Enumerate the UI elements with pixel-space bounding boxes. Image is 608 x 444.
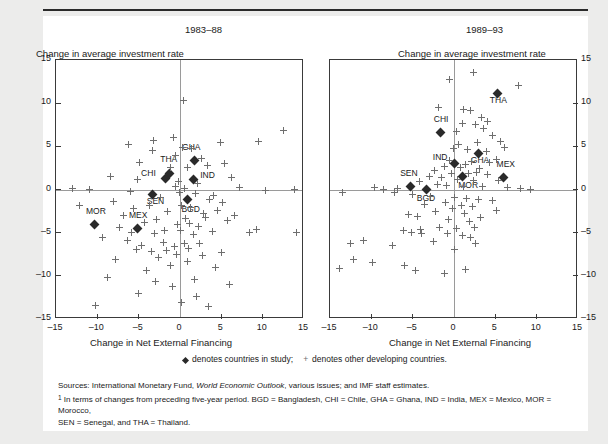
legend-diamond-label: denotes countries in study; — [192, 354, 293, 364]
x-axis-tick-label: –15 — [316, 322, 342, 332]
legend-diamond-icon — [182, 357, 189, 364]
scatter-point-other — [202, 214, 209, 221]
footnote-text-1: In terms of changes from preceding five-… — [58, 395, 551, 416]
x-tick — [138, 314, 139, 319]
y-axis-tick-label: 5 — [29, 139, 51, 149]
scatter-point-other — [479, 183, 486, 190]
scatter-point-other — [436, 224, 443, 231]
y-axis-tick-label: –15 — [29, 312, 51, 322]
y-tick — [573, 232, 578, 233]
scatter-point-other — [462, 266, 469, 273]
scatter-point-other — [418, 230, 425, 237]
scatter-label-ind: IND — [200, 170, 215, 180]
scatter-point-other — [151, 230, 158, 237]
y-tick — [573, 146, 578, 147]
scatter-point-other — [441, 270, 448, 277]
scatter-point-other — [426, 173, 433, 180]
scatter-point-other — [209, 228, 216, 235]
scatter-point-other — [339, 189, 346, 196]
sources-suffix: , various issues; and IMF staff estimate… — [284, 381, 429, 390]
legend-cross-icon: + — [303, 354, 308, 364]
scatter-point-other — [451, 246, 458, 253]
scatter-point-other — [99, 234, 106, 241]
scatter-point-other — [246, 229, 253, 236]
scatter-point-other — [451, 194, 458, 201]
scatter-point-other — [184, 258, 191, 265]
right-chart-period-title: 1989–93 — [466, 24, 503, 35]
scatter-point-other — [391, 189, 398, 196]
footnote-line-2: SEN = Senegal, and THA = Thailand. — [58, 417, 558, 429]
scatter-point-other — [527, 186, 534, 193]
y-tick — [56, 146, 61, 147]
scatter-point-other — [371, 184, 378, 191]
scatter-point-other — [205, 303, 212, 310]
x-axis-tick-label: –10 — [83, 322, 109, 332]
scatter-point-other — [450, 145, 457, 152]
scatter-point-other — [125, 141, 132, 148]
y-tick — [56, 103, 61, 104]
sources-prefix: Sources: International Monetary Fund, — [58, 381, 196, 390]
y-tick — [573, 103, 578, 104]
scatter-point-other — [170, 134, 177, 141]
sources-publication: World Economic Outlook — [196, 381, 284, 390]
y-tick — [56, 275, 61, 276]
scatter-point-other — [414, 213, 421, 220]
x-tick — [97, 314, 98, 319]
scatter-point-other — [212, 264, 219, 271]
scatter-point-other — [467, 107, 474, 114]
scatter-point-other — [475, 196, 482, 203]
left-chart-x-axis-title: Change in Net External Financing — [90, 337, 232, 348]
y-axis-tick-label: –15 — [581, 312, 603, 322]
right-scatter-plot: THACHIGHAINDMEXMORSENBGD — [329, 59, 577, 318]
scatter-point-other — [483, 148, 490, 155]
scatter-point-other — [409, 191, 416, 198]
left-scatter-plot: GHATHACHIINDSENBGDMORMEX — [55, 59, 303, 318]
scatter-point-other — [495, 177, 502, 184]
x-tick — [495, 314, 496, 319]
x-tick — [262, 314, 263, 319]
scatter-point-other — [69, 185, 76, 192]
scatter-point-other — [457, 164, 464, 171]
scatter-point-other — [192, 190, 199, 197]
scatter-point-other — [336, 265, 343, 272]
scatter-point-other — [504, 184, 511, 191]
scatter-point-other — [473, 169, 480, 176]
scatter-point-other — [191, 276, 198, 283]
scatter-point-other — [460, 183, 467, 190]
y-axis-tick-label: –10 — [581, 269, 603, 279]
scatter-point-study-mor — [89, 219, 99, 229]
scatter-point-other — [152, 278, 159, 285]
scatter-point-other — [194, 180, 201, 187]
scatter-point-other — [421, 201, 428, 208]
scatter-point-other — [127, 188, 134, 195]
scatter-point-other — [219, 199, 226, 206]
footnote-line-1: 1 In terms of changes from preceding fiv… — [58, 392, 558, 417]
scatter-point-other — [427, 193, 434, 200]
scatter-point-other — [231, 212, 238, 219]
source-notes: Sources: International Monetary Fund, Wo… — [58, 380, 558, 428]
scatter-point-other — [517, 185, 524, 192]
scatter-point-other — [236, 184, 243, 191]
scatter-point-other — [489, 197, 496, 204]
scatter-point-other — [112, 256, 119, 263]
scatter-point-other — [472, 121, 479, 128]
scatter-point-other — [461, 210, 468, 217]
legend-cross-label: denotes other developing countries. — [312, 354, 447, 364]
scatter-point-other — [347, 240, 354, 247]
scatter-point-other — [434, 181, 441, 188]
cutoff-header-text — [0, 0, 608, 7]
scatter-point-other — [186, 220, 193, 227]
scatter-point-other — [161, 227, 168, 234]
figure-container: 1983–88 1989–93 Change in average invest… — [0, 0, 608, 444]
scatter-point-study-chi — [436, 128, 446, 138]
scatter-point-other — [128, 229, 135, 236]
scatter-point-other — [196, 240, 203, 247]
scatter-point-other — [400, 227, 407, 234]
scatter-point-other — [401, 262, 408, 269]
scatter-point-other — [432, 208, 439, 215]
sources-line: Sources: International Monetary Fund, Wo… — [58, 380, 558, 392]
scatter-point-other — [444, 230, 451, 237]
scatter-point-other — [190, 231, 197, 238]
scatter-point-other — [124, 237, 131, 244]
y-axis-tick-label: –10 — [29, 269, 51, 279]
